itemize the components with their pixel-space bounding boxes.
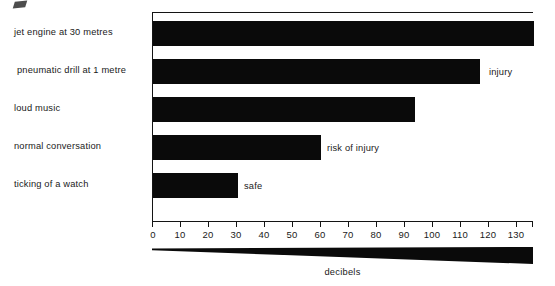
x-tick-label-120: 120 [480,230,496,240]
x-tick-label-100: 100 [424,230,440,240]
x-tick-label-70: 70 [343,230,354,240]
bar-normal-conversation [153,135,321,160]
category-label-column: jet engine at 30 metres pneumatic drill … [0,21,148,211]
annotation-injury: injury [489,68,512,77]
bar-pneumatic-drill [153,59,480,84]
x-tick-60 [320,221,321,227]
x-tick-90 [404,221,405,227]
x-tick-80 [376,221,377,227]
bar-jet-engine [153,21,534,46]
x-tick-120 [488,221,489,227]
x-tick-end [532,221,533,227]
x-tick-20 [208,221,209,227]
x-tick-label-50: 50 [287,230,298,240]
x-tick-label-40: 40 [259,230,270,240]
x-tick-label-80: 80 [371,230,382,240]
plot-top-rule [152,12,533,13]
x-tick-label-0: 0 [150,230,155,240]
x-tick-10 [180,221,181,227]
x-tick-50 [292,221,293,227]
scan-artifact-mark [13,0,28,8]
x-tick-label-60: 60 [315,230,326,240]
loudness-wedge [152,247,533,266]
x-tick-label-130: 130 [508,230,524,240]
x-tick-100 [432,221,433,227]
x-axis-line [152,221,533,222]
category-label-pneumatic-drill: pneumatic drill at 1 metre [17,66,151,75]
annotation-risk-of-injury: risk of injury [327,144,379,153]
x-tick-0 [152,221,153,227]
bar-ticking-watch [153,173,238,198]
annotation-safe: safe [244,182,262,191]
x-tick-30 [236,221,237,227]
chart-figure: jet engine at 30 metres pneumatic drill … [0,0,555,286]
x-tick-label-110: 110 [452,230,468,240]
x-axis-title: decibels [152,268,533,277]
bar-loud-music [153,97,415,122]
x-tick-label-20: 20 [203,230,214,240]
x-tick-40 [264,221,265,227]
category-label-loud-music: loud music [14,104,148,113]
x-tick-label-row: 0 10 20 30 40 50 60 70 80 90 100 110 120… [152,230,552,244]
category-label-normal-conversation: normal conversation [14,142,148,151]
plot-area: injury risk of injury safe [152,12,533,222]
x-tick-130 [516,221,517,227]
category-label-jet-engine: jet engine at 30 metres [14,28,148,37]
x-tick-110 [460,221,461,227]
category-label-ticking-watch: ticking of a watch [14,180,148,189]
loudness-wedge-shape [152,247,533,266]
x-tick-label-30: 30 [231,230,242,240]
x-tick-label-90: 90 [399,230,410,240]
x-tick-label-10: 10 [175,230,186,240]
x-tick-70 [348,221,349,227]
